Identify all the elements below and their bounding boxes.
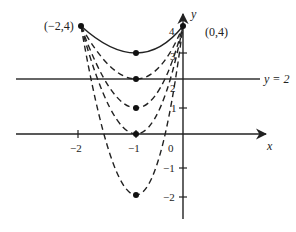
vertex-2 [133, 76, 139, 82]
y-tick-label-4: 4 [169, 25, 175, 37]
y-tick-label-neg1: −1 [163, 162, 175, 174]
y-tick-label-1: 1 [171, 102, 177, 114]
y-tick-label-3: 3 [170, 50, 176, 62]
curve-vertex-3 [81, 26, 183, 53]
line-label: y = 2 [263, 72, 289, 86]
x-tick-label-0: 0 [168, 142, 174, 154]
x-tick-label-neg2: −2 [70, 142, 82, 154]
vertex-1 [133, 105, 139, 111]
y-tick-label-2: 2 [170, 82, 176, 94]
x-axis-label: x [266, 139, 273, 153]
vertex-neg2 [133, 192, 139, 198]
point-0-4 [180, 23, 186, 29]
vertex-3 [133, 50, 139, 56]
y-tick-label-neg2: −2 [163, 191, 175, 203]
endpoint-label-right: (0,4) [205, 25, 228, 39]
vertex-0 [133, 131, 139, 137]
endpoint-label-left: (−2,4) [44, 19, 74, 33]
y-axis-label: y [190, 7, 197, 21]
x-tick-label-neg1: −1 [128, 142, 140, 154]
parabola-family-diagram: (−2,4) (0,4) y x y = 2 4 3 2 1 −1 −2 −2 … [0, 0, 296, 232]
point-neg2-4 [78, 23, 84, 29]
